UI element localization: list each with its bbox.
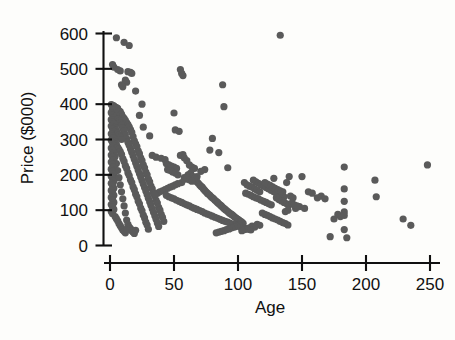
data-point	[170, 109, 177, 116]
data-point	[136, 112, 143, 119]
data-point	[270, 175, 277, 182]
data-point	[277, 32, 284, 39]
x-axis-tick-label: 150	[288, 275, 316, 294]
data-point	[117, 181, 124, 188]
data-point	[220, 103, 227, 110]
data-point	[120, 202, 127, 209]
data-point	[123, 226, 130, 233]
data-point	[117, 67, 124, 74]
data-point	[407, 222, 414, 229]
data-point	[224, 164, 231, 171]
data-point	[327, 233, 334, 240]
y-axis-tick-label: 300	[60, 131, 88, 150]
data-point	[122, 209, 129, 216]
data-point	[206, 147, 213, 154]
x-axis-tick-label: 50	[165, 275, 184, 294]
data-point	[424, 161, 431, 168]
data-point	[174, 171, 181, 178]
data-point	[146, 132, 153, 139]
data-point	[155, 223, 162, 230]
data-point	[341, 185, 348, 192]
y-axis-tick-label: 100	[60, 201, 88, 220]
data-point	[140, 124, 147, 131]
data-point	[176, 128, 183, 135]
data-point	[179, 72, 186, 79]
x-axis-tick-label: 0	[105, 275, 114, 294]
data-point	[119, 195, 126, 202]
data-point	[293, 202, 300, 209]
data-point	[118, 188, 125, 195]
data-point	[126, 42, 133, 49]
data-point	[321, 195, 328, 202]
x-axis-tick-label: 100	[224, 275, 252, 294]
y-axis-tick-label: 0	[79, 237, 88, 256]
data-point	[341, 226, 348, 233]
data-point	[284, 207, 291, 214]
data-point	[181, 154, 188, 161]
data-point	[284, 221, 291, 228]
data-point	[400, 215, 407, 222]
data-point	[119, 83, 126, 90]
data-point	[261, 179, 268, 186]
data-point	[188, 178, 195, 185]
y-axis-tick-label: 400	[60, 95, 88, 114]
data-point	[209, 135, 216, 142]
data-point	[213, 229, 220, 236]
data-point	[215, 149, 222, 156]
data-point	[371, 177, 378, 184]
x-axis-title: Age	[255, 298, 285, 317]
y-axis-title: Price ($000)	[18, 92, 37, 185]
y-axis-tick-label: 200	[60, 166, 88, 185]
data-point	[298, 173, 305, 180]
data-point	[132, 87, 139, 94]
data-point	[343, 234, 350, 241]
data-point	[301, 205, 308, 212]
data-point	[132, 227, 139, 234]
x-axis-tick-label: 200	[352, 275, 380, 294]
data-point	[113, 34, 120, 41]
scatter-plot-figure: 0100200300400500600 050100150200250 Pric…	[0, 0, 455, 340]
data-point	[128, 70, 135, 77]
data-point	[286, 173, 293, 180]
data-point	[373, 193, 380, 200]
data-point	[151, 191, 158, 198]
data-point	[341, 212, 348, 219]
data-point	[219, 81, 226, 88]
data-point	[145, 226, 152, 233]
x-axis-tick-label: 250	[416, 275, 444, 294]
plot-canvas: 0100200300400500600 050100150200250 Pric…	[0, 0, 455, 340]
data-point	[268, 201, 275, 208]
data-point	[138, 101, 145, 108]
data-point	[341, 163, 348, 170]
y-axis-tick-label: 600	[60, 25, 88, 44]
data-point	[341, 198, 348, 205]
y-axis-tick-label: 500	[60, 60, 88, 79]
